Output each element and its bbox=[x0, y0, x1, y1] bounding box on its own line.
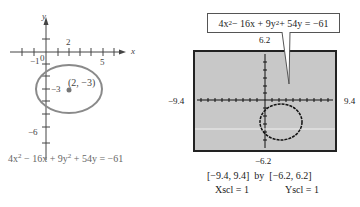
xscl-caption: Xscl = 1 bbox=[215, 184, 249, 195]
yscl-caption: Yscl = 1 bbox=[285, 184, 319, 195]
window-caption: [−9.4, 9.4] by [−6.2, 6.2] bbox=[207, 170, 312, 181]
ymin-label: −6.2 bbox=[255, 156, 271, 166]
